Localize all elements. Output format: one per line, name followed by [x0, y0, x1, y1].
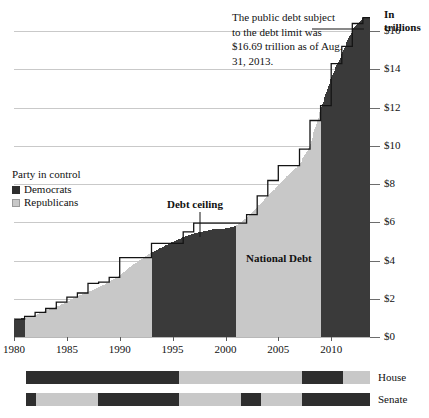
- x-tick-label-2005: 2005: [258, 343, 298, 355]
- control-segment-democrats: [26, 393, 36, 406]
- control-segment-democrats: [98, 393, 180, 406]
- control-segment-democrats: [241, 393, 261, 406]
- house-control-bar: [26, 371, 370, 384]
- x-tick-label-1980: 1980: [0, 343, 34, 355]
- x-tick-label-2000: 2000: [206, 343, 246, 355]
- y-axis: In trillions $0$2$4$6$8$10$12$14$16: [370, 0, 429, 345]
- y-tick-2: [370, 299, 380, 300]
- y-tick-4: [370, 261, 380, 262]
- x-tick-label-2010: 2010: [311, 343, 351, 355]
- y-tick-12: [370, 108, 380, 109]
- x-tick-label-1995: 1995: [153, 343, 193, 355]
- x-tick-label-1985: 1985: [47, 343, 87, 355]
- y-tick-label-2: $2: [384, 293, 395, 304]
- callout-text: The public debt subject to the debt limi…: [232, 10, 344, 68]
- y-axis-title-line1: In: [384, 8, 394, 20]
- y-tick-label-14: $14: [384, 63, 401, 74]
- x-tick-1980: [14, 337, 15, 341]
- legend-item-republicans: Republicans: [12, 196, 80, 209]
- legend-swatch-democrats: [12, 186, 20, 194]
- legend-swatch-republicans: [12, 199, 20, 207]
- y-tick-10: [370, 146, 380, 147]
- y-tick-label-16: $16: [384, 25, 401, 36]
- y-tick-label-12: $12: [384, 102, 401, 113]
- x-tick-1995: [173, 337, 174, 341]
- house-bar-label: House: [378, 371, 406, 384]
- x-tick-2000: [226, 337, 227, 341]
- x-tick-label-1990: 1990: [100, 343, 140, 355]
- legend-item-democrats: Democrats: [12, 183, 80, 196]
- y-tick-16: [370, 31, 380, 32]
- y-tick-label-8: $8: [384, 178, 395, 189]
- national-debt-label: National Debt: [246, 252, 312, 264]
- x-tick-2010: [331, 337, 332, 341]
- y-tick-label-10: $10: [384, 140, 401, 151]
- senate-control-bar: [26, 393, 370, 406]
- y-tick-6: [370, 222, 380, 223]
- debt-ceiling-label: Debt ceiling: [167, 198, 223, 210]
- senate-bar-label: Senate: [378, 393, 407, 406]
- x-tick-1990: [120, 337, 121, 341]
- control-segment-democrats: [302, 371, 343, 384]
- legend-label-democrats: Democrats: [24, 183, 72, 196]
- legend-label-republicans: Republicans: [24, 196, 78, 209]
- legend: Party in control Democrats Republicans: [12, 168, 80, 209]
- y-tick-8: [370, 184, 380, 185]
- x-axis: 1980198519901995200020052010: [0, 337, 429, 363]
- y-tick-label-4: $4: [384, 255, 395, 266]
- x-tick-1985: [67, 337, 68, 341]
- y-tick-label-6: $6: [384, 216, 395, 227]
- x-tick-2005: [278, 337, 279, 341]
- legend-title: Party in control: [12, 168, 80, 181]
- y-tick-14: [370, 69, 380, 70]
- control-segment-democrats: [26, 371, 179, 384]
- control-segment-democrats: [302, 393, 370, 406]
